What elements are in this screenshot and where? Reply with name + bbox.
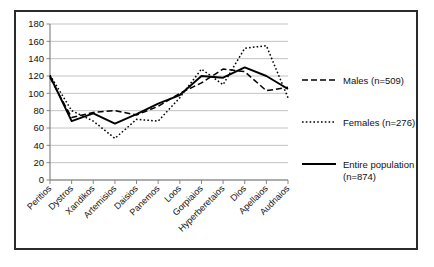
y-axis-tick-label: 100 [28, 88, 44, 99]
legend-label: Entire population [343, 159, 414, 170]
chart-svg: 020406080100120140160180PeritiosDystrosX… [16, 12, 416, 248]
y-axis-tick-label: 180 [28, 18, 44, 29]
y-axis-tick-label: 60 [33, 122, 44, 133]
legend-label-second-line: (n=874) [343, 171, 376, 182]
chart-frame: 020406080100120140160180PeritiosDystrosX… [14, 10, 418, 250]
y-axis-tick-label: 80 [33, 105, 44, 116]
line-chart: 020406080100120140160180PeritiosDystrosX… [16, 12, 416, 248]
y-axis-tick-label: 40 [33, 140, 44, 151]
series-line-dotted [50, 46, 288, 139]
y-axis-tick-label: 160 [28, 36, 44, 47]
y-axis-tick-label: 20 [33, 157, 44, 168]
legend-label: Males (n=509) [343, 75, 404, 86]
y-axis-tick-label: 140 [28, 53, 44, 64]
y-axis-tick-label: 120 [28, 70, 44, 81]
y-axis-tick-label: 0 [39, 174, 44, 185]
legend-label: Females (n=276) [343, 117, 415, 128]
